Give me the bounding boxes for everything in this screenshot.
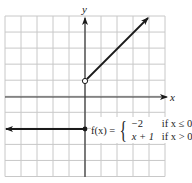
- case1-expr: −2: [132, 118, 162, 130]
- x-axis-label: x: [169, 91, 175, 103]
- case2-condition: if x > 0: [162, 131, 192, 143]
- axes: [5, 18, 167, 177]
- brace-icon: {: [120, 119, 127, 141]
- cases: −2 if x ≤ 0 x + 1 if x > 0: [132, 118, 192, 143]
- case1-condition: if x ≤ 0: [162, 118, 192, 130]
- y-axis-label: y: [81, 3, 87, 15]
- function-definition: f(x) = { −2 if x ≤ 0 x + 1 if x > 0: [91, 117, 187, 143]
- open-point: [82, 78, 87, 83]
- case2-expr: x + 1: [132, 131, 162, 143]
- piecewise-graph: x y: [0, 0, 192, 183]
- function-label: f(x) =: [91, 125, 115, 136]
- closed-point: [83, 127, 88, 132]
